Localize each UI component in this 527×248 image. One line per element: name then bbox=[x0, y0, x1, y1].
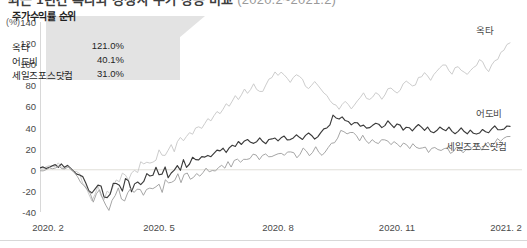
series-line-1 bbox=[40, 115, 510, 197]
callout-row-value: 31.0% bbox=[97, 68, 124, 79]
x-tick-3: 2020. 11 bbox=[379, 222, 415, 233]
y-tick-0: 0 bbox=[6, 164, 36, 175]
chart-root: 최근 1년간 옥타와 경쟁사 주가 상승 비교 (2020.2~2021.2) … bbox=[0, 0, 527, 248]
headline-suffix: (2020.2~2021.2) bbox=[237, 0, 336, 7]
callout-title: 주가수익률 순위 bbox=[12, 8, 76, 23]
bottom-rule bbox=[0, 240, 527, 241]
callout-row-name: 세일즈포스닷컴 bbox=[12, 68, 73, 82]
callout-row-1: 어도비40.1% bbox=[12, 54, 124, 69]
headline-clipped: 최근 1년간 옥타와 경쟁사 주가 상승 비교 (2020.2~2021.2) bbox=[0, 0, 527, 9]
series-label-1: 어도비 bbox=[476, 106, 502, 120]
x-tick-4: 2021. 2 bbox=[490, 222, 522, 233]
callout-row-value: 121.0% bbox=[92, 40, 124, 51]
y-tick-20: 20 bbox=[6, 143, 36, 154]
series-label-0: 옥타 bbox=[476, 23, 493, 37]
y-tick--20: -20 bbox=[6, 185, 36, 196]
callout-tail bbox=[179, 16, 205, 38]
callout-row-name: 옥타 bbox=[12, 40, 29, 54]
series-label-2: 세일즈포스닷컴 bbox=[446, 139, 507, 153]
callout-row-2: 세일즈포스닷컴31.0% bbox=[12, 68, 124, 83]
x-tick-0: 2020. 2 bbox=[32, 222, 64, 233]
series-line-2 bbox=[40, 130, 510, 210]
y-axis-tick-labels: 140120100806040200-20-40 bbox=[0, 0, 36, 248]
y-tick-60: 60 bbox=[6, 101, 36, 112]
callout-row-value: 40.1% bbox=[97, 54, 124, 65]
callout-row-0: 옥타121.0% bbox=[12, 40, 124, 55]
y-tick-40: 40 bbox=[6, 122, 36, 133]
x-tick-2: 2020. 8 bbox=[262, 222, 294, 233]
y-tick--40: -40 bbox=[6, 207, 36, 218]
callout-row-name: 어도비 bbox=[12, 54, 38, 68]
headline-text: 최근 1년간 옥타와 경쟁사 주가 상승 비교 bbox=[8, 0, 234, 7]
x-tick-1: 2020. 5 bbox=[143, 222, 175, 233]
